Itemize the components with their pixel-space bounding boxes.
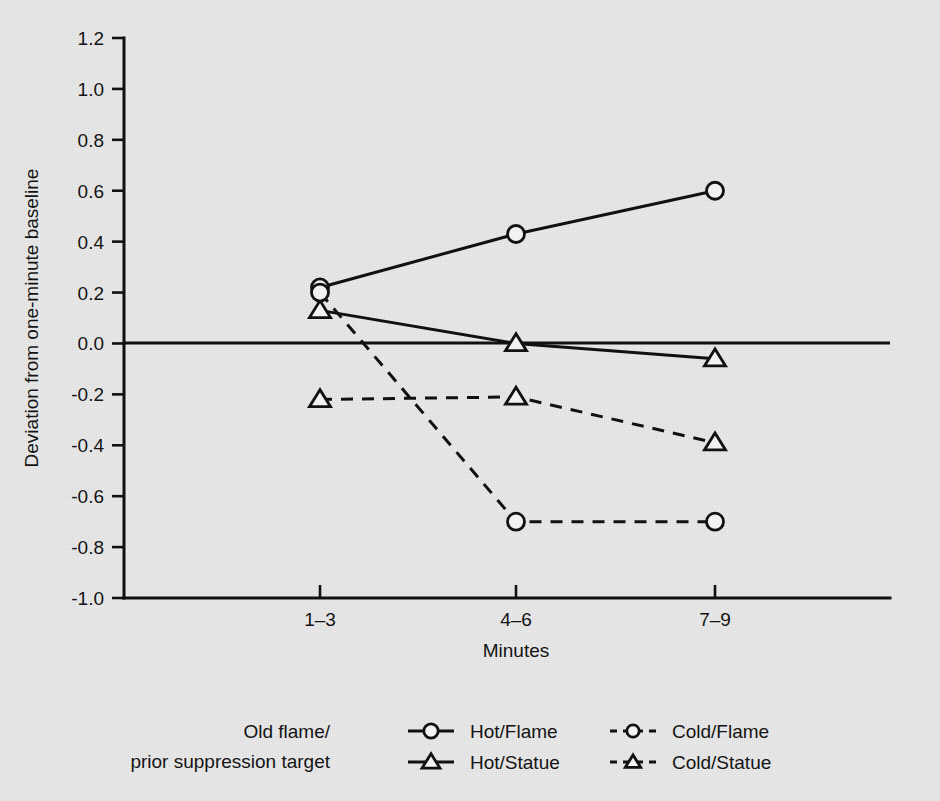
line-chart: 1.21.00.80.60.40.20.0-0.2-0.4-0.6-0.8-1.… xyxy=(0,0,940,801)
legend-item-label: Hot/Statue xyxy=(470,752,560,773)
y-tick-label: 0.8 xyxy=(78,130,104,151)
data-point-marker-circle xyxy=(707,182,724,199)
chart-figure: 1.21.00.80.60.40.20.0-0.2-0.4-0.6-0.8-1.… xyxy=(0,0,940,801)
series-cold-flame xyxy=(312,284,724,530)
x-tick-label: 1–3 xyxy=(304,609,336,630)
data-point-marker-circle xyxy=(508,226,525,243)
y-tick-label: 0.6 xyxy=(78,181,104,202)
data-point-marker-circle xyxy=(707,513,724,530)
legend-item-label: Cold/Statue xyxy=(672,752,771,773)
data-point-marker-circle xyxy=(312,284,329,301)
y-axis-ticks: 1.21.00.80.60.40.20.0-0.2-0.4-0.6-0.8-1.… xyxy=(71,28,124,609)
series-cold-statue xyxy=(309,387,725,450)
legend-group-label-line2: prior suppression target xyxy=(130,751,330,772)
legend-item-label: Cold/Flame xyxy=(672,721,769,742)
legend-item-hot-flame[interactable]: Hot/Flame xyxy=(408,721,558,742)
chart-legend: Old flame/ prior suppression target Hot/… xyxy=(130,721,771,773)
legend-marker-triangle xyxy=(625,755,640,767)
data-point-marker-triangle xyxy=(309,301,330,318)
y-tick-label: 1.0 xyxy=(78,79,104,100)
legend-marker-circle xyxy=(627,725,639,737)
series-line xyxy=(320,293,715,522)
legend-entries: Hot/FlameCold/FlameHot/StatueCold/Statue xyxy=(408,721,771,773)
y-axis-title: Deviation from one-minute baseline xyxy=(21,169,42,468)
x-axis-title: Minutes xyxy=(483,640,550,661)
series-hot-flame xyxy=(312,182,724,296)
x-tick-label: 4–6 xyxy=(500,609,532,630)
y-tick-label: -0.4 xyxy=(71,435,104,456)
y-tick-label: -0.6 xyxy=(71,486,104,507)
x-tick-label: 7–9 xyxy=(699,609,731,630)
legend-group-label-line1: Old flame/ xyxy=(243,721,330,742)
y-tick-label: 0.4 xyxy=(78,232,105,253)
legend-item-hot-statue[interactable]: Hot/Statue xyxy=(408,752,560,773)
legend-item-label: Hot/Flame xyxy=(470,721,558,742)
legend-item-cold-flame[interactable]: Cold/Flame xyxy=(610,721,769,742)
legend-item-cold-statue[interactable]: Cold/Statue xyxy=(610,752,771,773)
legend-marker-circle xyxy=(424,724,438,738)
y-tick-label: 1.2 xyxy=(78,28,104,49)
y-tick-label: -0.8 xyxy=(71,537,104,558)
y-tick-label: -1.0 xyxy=(71,588,104,609)
series-hot-statue xyxy=(309,301,725,366)
data-point-marker-triangle xyxy=(704,433,725,450)
y-tick-label: 0.2 xyxy=(78,283,104,304)
x-axis-ticks: 1–34–67–9 xyxy=(304,585,731,630)
y-tick-label: 0.0 xyxy=(78,333,104,354)
data-point-marker-triangle xyxy=(505,387,526,404)
y-tick-label: -0.2 xyxy=(71,384,104,405)
data-point-marker-circle xyxy=(508,513,525,530)
series-layer xyxy=(309,182,725,530)
